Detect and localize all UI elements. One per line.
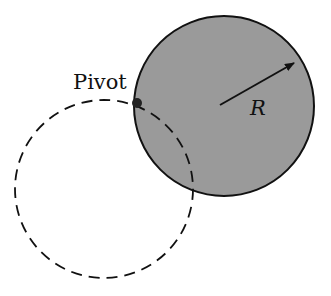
- dashed-circle: [15, 100, 193, 278]
- pivot-point: [132, 98, 142, 108]
- solid-disk: [134, 16, 314, 196]
- pivot-label: Pivot: [73, 70, 127, 94]
- pendulum-disk-diagram: [0, 0, 331, 296]
- radius-label: R: [250, 96, 266, 120]
